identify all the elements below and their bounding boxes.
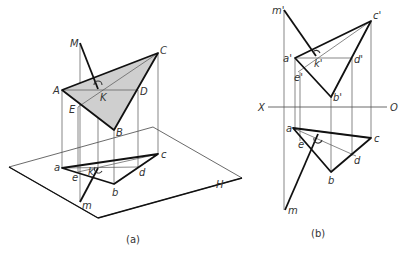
- label-plane-H: H: [216, 179, 224, 190]
- label-C: C: [160, 45, 167, 56]
- label-m1: m': [272, 5, 285, 16]
- label-c1: c': [373, 10, 381, 21]
- label-b: b: [112, 187, 118, 198]
- label-a: a: [54, 162, 60, 173]
- label-m: m: [82, 200, 92, 211]
- label-e1: e': [294, 72, 303, 83]
- axis-label-O: O: [390, 102, 398, 113]
- label-a1: a': [283, 53, 292, 64]
- label-A: A: [52, 85, 60, 96]
- caption-a: (a): [126, 234, 140, 245]
- axis-label-X: X: [257, 102, 266, 113]
- panel-a: M C A D K E B a c d e k b m H (a): [9, 38, 242, 245]
- label-d1: d': [354, 54, 363, 65]
- caption-b: (b): [311, 228, 325, 239]
- label-a-top: a: [286, 123, 292, 134]
- label-e: e: [72, 172, 78, 183]
- label-c-top: c: [374, 133, 380, 144]
- line-m1-k1: [284, 10, 316, 56]
- label-b-top: b: [328, 175, 334, 186]
- label-D: D: [140, 86, 148, 97]
- panel-b: X O m' c' a' k' d' e' b' a c: [257, 5, 398, 239]
- label-B: B: [116, 127, 123, 138]
- label-b1: b': [333, 92, 342, 103]
- label-E: E: [69, 104, 76, 115]
- label-k1: k': [314, 58, 323, 69]
- label-m-top: m: [288, 205, 298, 216]
- label-M: M: [70, 38, 79, 49]
- diagram-canvas: M C A D K E B a c d e k b m H (a) X O: [0, 0, 401, 253]
- descriptive-geometry-figure: M C A D K E B a c d e k b m H (a) X O: [0, 0, 401, 253]
- label-d-top: d: [354, 155, 361, 166]
- label-c: c: [161, 149, 167, 160]
- label-d: d: [139, 167, 146, 178]
- label-e-top: e: [298, 139, 304, 150]
- plane-h: [9, 127, 242, 218]
